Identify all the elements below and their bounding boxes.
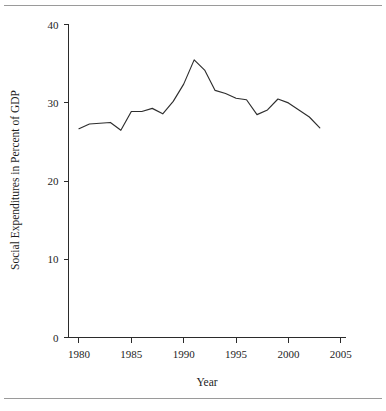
- x-tick-label: 2005: [330, 348, 353, 360]
- y-tick-label: 10: [48, 253, 60, 265]
- x-tick-label: 1985: [120, 348, 143, 360]
- figure-page: 010203040 198019851990199520002005 Year …: [0, 0, 386, 411]
- y-tick-label: 0: [53, 332, 59, 344]
- x-tick-label: 1990: [173, 348, 196, 360]
- x-tick-label: 1995: [225, 348, 248, 360]
- x-axis-ticks: 198019851990199520002005: [68, 338, 352, 360]
- y-tick-label: 20: [48, 175, 60, 187]
- y-axis-ticks: 010203040: [48, 19, 69, 344]
- page-rule-bottom: [4, 398, 382, 399]
- y-tick-label: 40: [48, 19, 60, 31]
- y-axis-title: Social Expenditures in Percent of GDP: [9, 90, 22, 270]
- series-line-social-expenditures: [79, 60, 320, 130]
- page-rule-top: [4, 5, 382, 6]
- x-tick-label: 2000: [277, 348, 300, 360]
- x-tick-label: 1980: [68, 348, 91, 360]
- x-axis-title: Year: [196, 376, 217, 388]
- line-chart-figure: 010203040 198019851990199520002005 Year …: [0, 8, 386, 394]
- y-tick-label: 30: [48, 97, 60, 109]
- chart-canvas: 010203040 198019851990199520002005 Year …: [0, 8, 386, 394]
